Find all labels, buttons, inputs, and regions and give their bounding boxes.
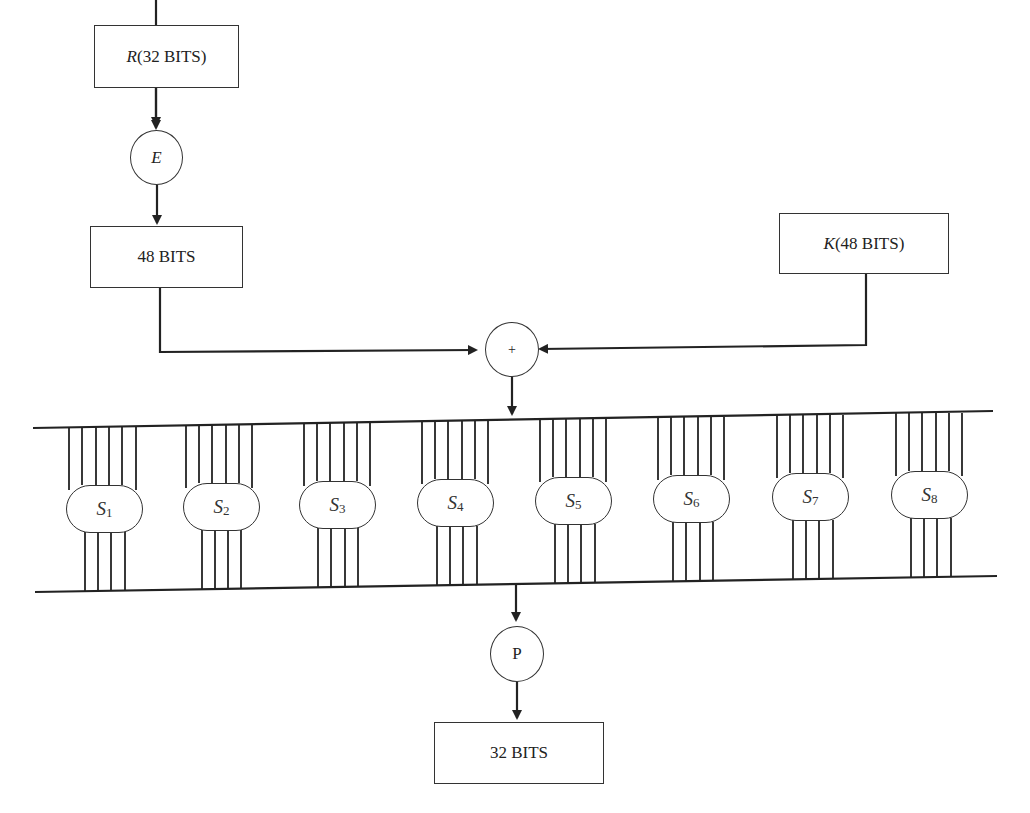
expansion-e-node: E	[130, 130, 183, 185]
expanded-48-bits-box: 48 BITS	[90, 226, 243, 288]
expansion-label: E	[151, 148, 161, 168]
permutation-p-node: P	[490, 626, 544, 682]
sbox-6: S6	[653, 475, 730, 523]
sbox-2: S2	[183, 483, 260, 531]
expanded-label: 48 BITS	[137, 247, 195, 267]
permutation-label: P	[512, 644, 521, 664]
key-label: (48 BITS)	[835, 234, 904, 254]
key-var: K	[824, 234, 835, 254]
xor-label: +	[508, 342, 516, 358]
output-32-bits-box: 32 BITS	[434, 722, 604, 784]
sbox-8: S8	[891, 471, 968, 519]
sbox-5: S5	[535, 477, 612, 525]
input-r-32-bits-box: R(32 BITS)	[94, 25, 239, 88]
sbox-7: S7	[772, 473, 849, 521]
diagram-lines	[0, 0, 1030, 813]
sbox-4: S4	[417, 479, 494, 527]
sbox-3: S3	[299, 481, 376, 529]
sbox-1: S1	[66, 485, 143, 533]
output-label: 32 BITS	[490, 743, 548, 763]
xor-node: +	[485, 322, 539, 377]
input-label: (32 BITS)	[137, 47, 206, 67]
key-k-48-bits-box: K(48 BITS)	[779, 213, 949, 274]
input-var: R	[127, 47, 137, 67]
